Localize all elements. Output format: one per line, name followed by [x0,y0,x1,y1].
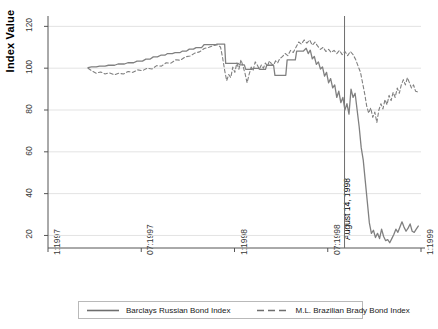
legend-item-ml-brazilian-brady-bond-index[interactable]: M.L. Brazilian Brady Bond Index [257,302,410,318]
legend-swatch-solid-line [87,306,119,315]
chart-legend: Barclays Russian Bond Index M.L. Brazili… [78,301,363,319]
legend-label-barclays: Barclays Russian Bond Index [126,306,231,315]
series-line-barclays-russian [88,44,418,243]
legend-label-brazilian: M.L. Brazilian Brady Bond Index [296,306,410,315]
legend-item-barclays-russian-bond-index[interactable]: Barclays Russian Bond Index [87,302,231,318]
legend-swatch-dashed-line [257,306,289,315]
chart-container: Index Value 20406080100120 1:199707:1997… [0,0,438,329]
plot-area [0,0,438,329]
